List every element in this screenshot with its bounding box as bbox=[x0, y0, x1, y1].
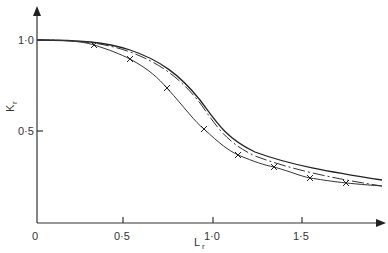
x-marker-icon bbox=[201, 126, 207, 132]
series-solid bbox=[37, 40, 382, 180]
y-axis-arrow-icon bbox=[33, 6, 41, 16]
x-marker-icon bbox=[164, 85, 170, 91]
y-tick-label: 1·0 bbox=[18, 34, 34, 46]
x-marker-icon bbox=[127, 56, 133, 62]
x-marker-icon bbox=[235, 152, 241, 158]
x-tick-label: 0 bbox=[32, 230, 38, 242]
svg-text:r: r bbox=[202, 242, 205, 251]
y-tick-label: 0·5 bbox=[18, 125, 34, 137]
chart: 0 0·5 1·0 1·5 0·5 1·0 L r K r bbox=[0, 0, 388, 253]
svg-text:K: K bbox=[4, 104, 16, 112]
x-tick-label: 1·5 bbox=[293, 230, 309, 242]
svg-text:r: r bbox=[10, 101, 19, 104]
x-axis-arrow-icon bbox=[376, 219, 386, 227]
x-tick-label: 1·0 bbox=[204, 230, 220, 242]
x-tick-label: 0·5 bbox=[114, 230, 130, 242]
x-markers bbox=[91, 42, 349, 186]
svg-text:L: L bbox=[194, 236, 200, 248]
y-axis-label: K r bbox=[4, 101, 19, 112]
